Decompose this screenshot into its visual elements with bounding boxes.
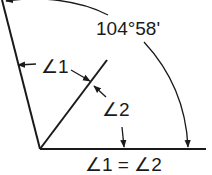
equality-label: ∠1 = ∠2 xyxy=(85,155,162,174)
angle2-label: ∠2 xyxy=(102,100,130,119)
angle2-arrow-bisector xyxy=(94,86,106,97)
total-angle-label: 104°58' xyxy=(96,19,160,38)
angle1-label: ∠1 xyxy=(41,57,69,76)
total-angle-arc-upper xyxy=(6,0,108,15)
angle2-arrow-baseline xyxy=(122,127,124,147)
total-angle-arc-lower xyxy=(144,42,188,147)
angle1-arrow-bisector xyxy=(71,70,90,81)
angle-bisector-diagram: 104°58' ∠1 ∠2 ∠1 = ∠2 xyxy=(0,0,212,175)
angle1-arrow-left xyxy=(18,64,36,65)
left-arm-line xyxy=(2,0,40,149)
